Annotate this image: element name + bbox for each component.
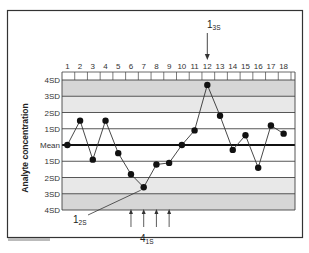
y-tick-label: 1SD — [44, 125, 60, 134]
x-tick-label: 8 — [154, 62, 159, 71]
x-tick-label: 2 — [78, 62, 83, 71]
x-tick-label: 3 — [91, 62, 96, 71]
x-tick-label: 9 — [167, 62, 172, 71]
x-tick-label: 17 — [266, 62, 275, 71]
y-tick-label: Mean — [40, 141, 60, 150]
x-tick-label: 10 — [177, 62, 186, 71]
x-tick-label: 11 — [190, 62, 199, 71]
data-point — [268, 122, 274, 128]
x-tick-label: 6 — [129, 62, 134, 71]
footer-bar — [8, 238, 50, 241]
x-tick-label: 5 — [116, 62, 121, 71]
data-point — [217, 113, 223, 119]
x-tick-label: 4 — [103, 62, 108, 71]
x-tick-label: 13 — [216, 62, 225, 71]
sd-band — [62, 178, 295, 194]
data-point — [230, 147, 236, 153]
x-tick-label: 12 — [203, 62, 212, 71]
data-point — [280, 130, 286, 136]
data-point — [140, 184, 146, 190]
data-point — [179, 142, 185, 148]
data-point — [204, 82, 210, 88]
data-point — [166, 160, 172, 166]
data-point — [64, 142, 70, 148]
data-point — [191, 127, 197, 133]
data-point — [242, 132, 248, 138]
x-tick-label: 14 — [228, 62, 237, 71]
y-tick-label: 4SD — [44, 76, 60, 85]
sd-band — [62, 96, 295, 112]
data-point — [128, 171, 134, 177]
y-tick-label: 2SD — [44, 109, 60, 118]
data-point — [90, 156, 96, 162]
levey-jennings-chart: 123456789101112131415161718 4SD3SD2SD1SD… — [0, 0, 309, 253]
data-point — [102, 117, 108, 123]
data-point — [255, 165, 261, 171]
y-tick-label: 3SD — [44, 92, 60, 101]
x-tick-label: 1 — [65, 62, 70, 71]
y-tick-label: 1SD — [44, 157, 60, 166]
y-tick-label: 3SD — [44, 190, 60, 199]
sd-band — [62, 80, 295, 96]
x-tick-label: 15 — [241, 62, 250, 71]
data-point — [77, 117, 83, 123]
x-tick-label: 16 — [254, 62, 263, 71]
y-axis-title: Analyte concentration — [20, 103, 30, 192]
sd-band — [62, 194, 295, 210]
data-point — [115, 150, 121, 156]
y-tick-label: 4SD — [44, 206, 60, 215]
x-tick-label: 18 — [279, 62, 288, 71]
data-point — [153, 161, 159, 167]
y-tick-label: 2SD — [44, 174, 60, 183]
rule-13s-sub: 3S — [213, 24, 222, 31]
x-tick-label: 7 — [141, 62, 146, 71]
rule-41s-sub: 1S — [146, 238, 155, 245]
rule-12s-sub: 2S — [79, 219, 88, 226]
